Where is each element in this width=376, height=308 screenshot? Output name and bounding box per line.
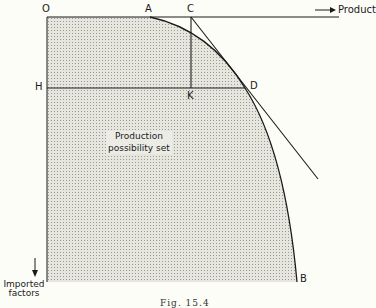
region-label-line2: possibility set [108,143,170,155]
point-o-label: O [42,4,50,14]
product-arrow-icon [330,7,336,13]
point-b-label: B [300,274,307,284]
production-possibility-set [47,17,297,282]
factors-arrow-icon [32,270,38,277]
point-c-label: C [187,4,194,14]
point-k-label: K [187,91,194,101]
point-d-label: D [250,81,258,91]
production-possibility-set-label: Production possibility set [106,131,172,154]
region-label-line1: Production [108,131,170,143]
point-h-label: H [35,82,43,92]
point-a-label: A [145,4,152,14]
product-axis-label: Product [338,5,376,16]
imported-factors-line2: factors [2,289,46,298]
figure-caption: Fig. 15.4 [160,298,210,308]
imported-factors-label: Imported factors [2,280,46,299]
